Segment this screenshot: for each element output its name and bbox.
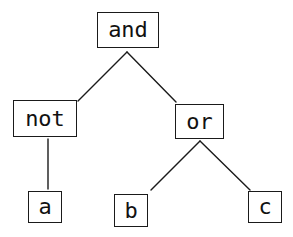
edge-and-or (127, 52, 176, 102)
node-b: b (114, 194, 148, 227)
edge-or-c (200, 141, 250, 190)
edge-or-b (151, 141, 200, 190)
node-not: not (13, 100, 77, 137)
node-label: b (124, 200, 137, 222)
node-a: a (28, 191, 62, 223)
node-or: or (175, 104, 224, 139)
node-c: c (248, 191, 282, 223)
edge-and-not (78, 52, 127, 101)
node-label: c (258, 196, 271, 218)
node-label: or (186, 111, 213, 133)
node-label: not (25, 108, 65, 130)
node-and: and (97, 12, 159, 48)
expression-tree: and not or a b c (0, 0, 293, 237)
node-label: and (108, 19, 148, 41)
node-label: a (38, 196, 51, 218)
